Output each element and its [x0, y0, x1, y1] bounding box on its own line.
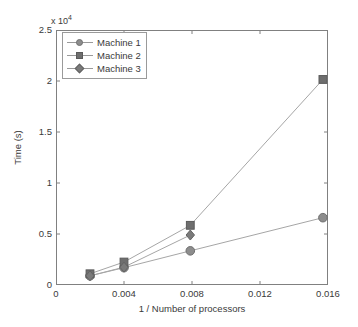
x-axis-title: 1 / Number of processors	[56, 303, 328, 314]
data-point-marker	[319, 76, 327, 84]
data-point-marker	[186, 247, 195, 256]
circle-marker-icon	[76, 39, 83, 46]
square-marker-icon	[76, 52, 83, 59]
legend-label: Machine 2	[97, 50, 141, 61]
diamond-marker-icon	[75, 64, 85, 74]
legend-marker-sample	[67, 49, 93, 62]
series-line	[90, 79, 323, 273]
y-axis-title: Time (s)	[12, 103, 23, 193]
legend-label: Machine 1	[97, 37, 141, 48]
chart-canvas	[0, 0, 358, 327]
legend-item: Machine 2	[67, 49, 141, 62]
legend-marker-sample	[67, 62, 93, 75]
series-line	[90, 235, 190, 276]
data-point-marker	[319, 213, 328, 222]
legend-item: Machine 3	[67, 62, 141, 75]
data-point-marker	[186, 230, 194, 240]
legend-label: Machine 3	[97, 63, 141, 74]
legend-item: Machine 1	[67, 36, 141, 49]
legend-marker-sample	[67, 36, 93, 49]
chart-legend: Machine 1Machine 2Machine 3	[62, 32, 147, 79]
data-point-marker	[186, 221, 194, 229]
chart-figure: x 104 00.511.522.5 00.0040.0080.0120.016…	[0, 0, 358, 327]
